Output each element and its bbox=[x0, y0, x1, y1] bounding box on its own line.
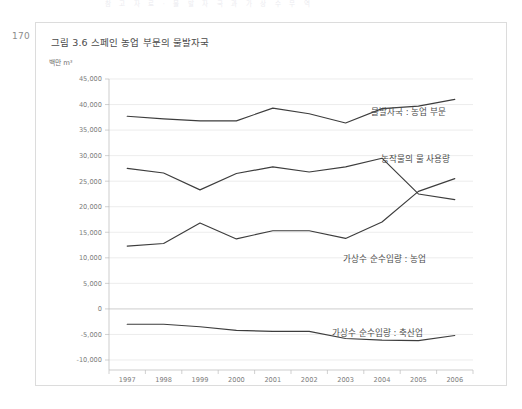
y-tick-label: 15,000 bbox=[79, 229, 102, 237]
x-tick-label: 2000 bbox=[228, 376, 245, 384]
y-tick-label: 0 bbox=[98, 305, 102, 313]
x-tick-label: 2003 bbox=[337, 376, 354, 384]
y-tick-label: -5,000 bbox=[81, 331, 102, 339]
page-canvas: 참 고 자 료 · 물 발 자 국 과 가 상 수 무 역 170 그림 3.6… bbox=[0, 0, 522, 409]
y-tick-label: 45,000 bbox=[79, 75, 102, 83]
series-label-2: 가상수 순수입량 : 농업 bbox=[343, 253, 426, 264]
x-tick-label: 2006 bbox=[446, 376, 463, 384]
x-tick-label: 1997 bbox=[119, 376, 136, 384]
y-tick-label: 25,000 bbox=[79, 178, 102, 186]
series-label-3: 가상수 순수입량 : 축산업 bbox=[332, 327, 423, 338]
series-label-1: 농작물의 물 사용량 bbox=[381, 153, 450, 164]
series-line-1 bbox=[127, 158, 455, 199]
y-tick-label: 35,000 bbox=[79, 126, 102, 134]
series-label-0: 물발자국 : 농업 부문 bbox=[371, 107, 446, 117]
y-tick-label: 5,000 bbox=[83, 280, 102, 288]
x-tick-label: 1999 bbox=[192, 376, 209, 384]
y-tick-label: 40,000 bbox=[79, 101, 102, 109]
y-tick-label: 10,000 bbox=[79, 254, 102, 262]
line-chart: 45,00040,00035,00030,00025,00020,00015,0… bbox=[36, 23, 508, 387]
x-tick-label: 2002 bbox=[301, 376, 318, 384]
x-tick-label: 2005 bbox=[410, 376, 427, 384]
y-tick-label: 20,000 bbox=[79, 203, 102, 211]
page-number: 170 bbox=[12, 31, 30, 41]
chart-plot-area: 45,00040,00035,00030,00025,00020,00015,0… bbox=[36, 23, 508, 387]
figure-container: 그림 3.6 스페인 농업 부문의 물발자국 백만 m³ 45,00040,00… bbox=[35, 22, 507, 386]
series-line-2 bbox=[127, 179, 455, 246]
y-tick-label: 30,000 bbox=[79, 152, 102, 160]
y-tick-label: -10,000 bbox=[77, 356, 102, 364]
x-tick-label: 2001 bbox=[264, 376, 281, 384]
x-tick-label: 1998 bbox=[155, 376, 172, 384]
x-tick-label: 2004 bbox=[374, 376, 391, 384]
running-head: 참 고 자 료 · 물 발 자 국 과 가 상 수 무 역 bbox=[105, 0, 505, 9]
